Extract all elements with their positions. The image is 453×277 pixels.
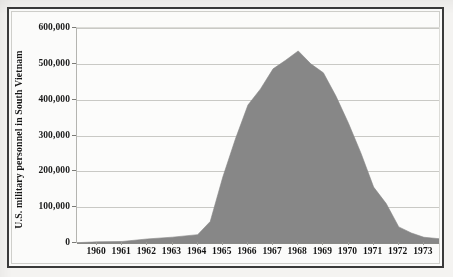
x-tick-mark-1965	[222, 242, 223, 245]
y-tick-label-600000: 600,000	[38, 22, 70, 32]
x-tick-mark-1969	[322, 242, 323, 245]
y-axis-title: U.S. military personnel in South Vietnam	[13, 35, 24, 245]
x-tick-mark-1960	[96, 242, 97, 245]
x-tick-mark-1964	[197, 242, 198, 245]
x-tick-mark-1961	[121, 242, 122, 245]
x-tick-label-1966: 1966	[237, 246, 256, 256]
y-tick-label-100000: 100,000	[38, 201, 70, 211]
x-tick-label-1971: 1971	[363, 246, 382, 256]
x-tick-mark-1962	[146, 242, 147, 245]
x-tick-mark-1967	[272, 242, 273, 245]
x-tick-mark-1972	[398, 242, 399, 245]
x-tick-label-1961: 1961	[112, 246, 131, 256]
plot-area	[76, 27, 440, 243]
x-tick-label-1964: 1964	[187, 246, 206, 256]
scanned-page: U.S. military personnel in South Vietnam…	[0, 0, 453, 277]
x-tick-label-1973: 1973	[413, 246, 432, 256]
x-tick-label-1960: 1960	[86, 246, 105, 256]
x-tick-mark-1971	[373, 242, 374, 245]
x-tick-label-1972: 1972	[388, 246, 407, 256]
y-tick-label-400000: 400,000	[38, 94, 70, 104]
x-tick-label-1967: 1967	[262, 246, 281, 256]
area-chart: U.S. military personnel in South Vietnam…	[0, 0, 453, 277]
x-tick-label-1965: 1965	[212, 246, 231, 256]
area-fill	[77, 51, 439, 243]
y-tick-label-200000: 200,000	[38, 165, 70, 175]
x-tick-label-1962: 1962	[137, 246, 156, 256]
x-tick-mark-1968	[297, 242, 298, 245]
x-tick-mark-1966	[247, 242, 248, 245]
x-axis: 1960196119621963196419651966196719681969…	[0, 246, 453, 262]
series-area-us-personnel	[77, 28, 439, 244]
x-tick-label-1968: 1968	[288, 246, 307, 256]
y-tick-label-500000: 500,000	[38, 58, 70, 68]
x-tick-mark-1963	[172, 242, 173, 245]
x-tick-mark-1973	[423, 242, 424, 245]
x-tick-mark-1970	[348, 242, 349, 245]
x-tick-label-1970: 1970	[338, 246, 357, 256]
y-tick-label-300000: 300,000	[38, 130, 70, 140]
y-axis: U.S. military personnel in South Vietnam…	[0, 0, 76, 277]
x-tick-label-1969: 1969	[313, 246, 332, 256]
x-tick-label-1963: 1963	[162, 246, 181, 256]
